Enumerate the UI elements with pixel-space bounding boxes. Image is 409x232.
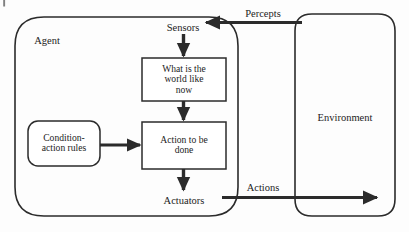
- box-action-to-do-line-1: Action to be: [160, 134, 207, 145]
- box-world-state-line-3: now: [176, 84, 193, 95]
- box-condition-action-rules-line-2: action rules: [42, 143, 87, 154]
- box-condition-action-rules-label: Condition- action rules: [29, 133, 99, 155]
- percepts-flow-label: Percepts: [245, 8, 281, 20]
- box-condition-action-rules-line-1: Condition-: [43, 132, 85, 143]
- box-action-to-do-line-2: done: [175, 145, 194, 156]
- agent-container-label: Agent: [34, 35, 60, 47]
- page-registration-tick: [3, 0, 5, 7]
- environment-container-label: Environment: [318, 112, 373, 124]
- box-world-state-line-1: What is the: [162, 62, 206, 73]
- diagram-canvas: Agent Environment Sensors Actuators Perc…: [0, 0, 409, 232]
- box-world-state-line-2: world like: [164, 73, 203, 84]
- box-action-to-do-label: Action to be done: [144, 135, 224, 157]
- sensors-label: Sensors: [167, 22, 200, 34]
- actions-flow-label: Actions: [247, 182, 280, 194]
- box-world-state-label: What is the world like now: [144, 63, 224, 96]
- actuators-label: Actuators: [164, 195, 205, 207]
